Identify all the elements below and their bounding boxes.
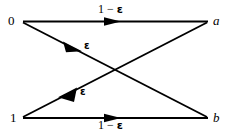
edge-lines xyxy=(23,22,208,119)
arrowhead-1-to-a xyxy=(58,87,77,102)
edge-label-top-horizontal: 1 − ε xyxy=(98,3,123,16)
node-label-input-1: 1 xyxy=(10,111,17,124)
edge-label-bottom-epsilon: ε xyxy=(117,119,123,132)
arrowhead-0-to-b xyxy=(63,42,82,53)
edge-label-bottom-prefix: 1 − xyxy=(98,118,117,132)
edge-label-diagonal-down-epsilon: ε xyxy=(84,41,90,51)
bsc-diagram: 0 1 a b 1 − ε 1 − ε ε ε xyxy=(0,0,226,134)
node-label-output-b: b xyxy=(213,111,220,124)
channel-graph-svg xyxy=(0,0,226,134)
edge-arrowheads xyxy=(58,17,121,122)
edge-label-diagonal-up-epsilon: ε xyxy=(80,87,86,97)
edge-label-top-prefix: 1 − xyxy=(98,2,117,16)
edge-label-bottom-horizontal: 1 − ε xyxy=(98,119,123,132)
node-label-input-0: 0 xyxy=(8,14,15,27)
arrowhead-0-to-a xyxy=(104,17,121,26)
node-label-output-a: a xyxy=(213,14,220,27)
edge-label-top-epsilon: ε xyxy=(117,3,123,16)
